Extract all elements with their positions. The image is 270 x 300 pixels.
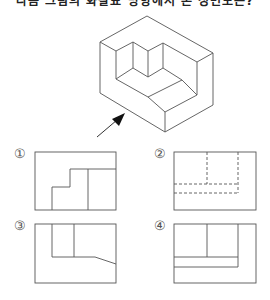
option-3-drawing (35, 224, 116, 283)
option-4-label[interactable]: ④ (154, 219, 166, 233)
option-2-drawing (174, 152, 256, 210)
option-1-drawing (35, 152, 116, 210)
isometric-object (100, 16, 213, 132)
diagram-canvas (0, 0, 270, 300)
option-1-label[interactable]: ① (14, 147, 26, 161)
view-direction-arrow (97, 113, 125, 137)
option-4-drawing (174, 224, 256, 283)
option-2-label[interactable]: ② (154, 147, 166, 161)
option-3-label[interactable]: ③ (14, 219, 26, 233)
